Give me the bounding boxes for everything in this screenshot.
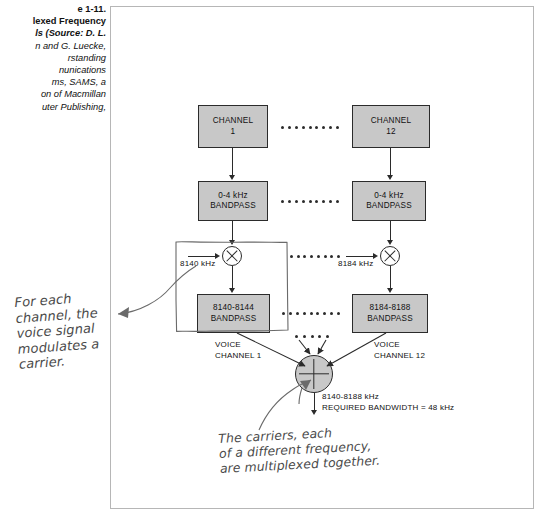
voice-channel-1-line1: VOICE xyxy=(215,340,261,351)
bandpass-12-label-line1: 0-4 kHz xyxy=(374,191,404,201)
arrowhead-mixer1-to-rfbp1 xyxy=(229,288,235,293)
channel-1-label-line1: CHANNEL xyxy=(213,116,254,126)
arrowhead-ch12-to-bp12 xyxy=(387,175,393,180)
rf-bandpass-1-box: 8140-8144 BANDPASS xyxy=(197,294,270,333)
channel-12-label-line1: CHANNEL xyxy=(371,116,412,126)
caption-line-1: e 1-11. xyxy=(0,3,106,15)
connector-bp1-to-mixer1 xyxy=(232,221,233,242)
caption-line-8: on of Macmillan xyxy=(0,88,106,100)
rf-bandpass-12-label-line2: BANDPASS xyxy=(367,314,413,324)
ellipsis-row-bandpass xyxy=(281,199,339,203)
mixer-12-symbol xyxy=(380,246,400,266)
caption-line-3: ls (Source: D. L. xyxy=(0,27,106,39)
bandpass-12-box: 0-4 kHz BANDPASS xyxy=(352,181,426,221)
voice-channel-12-line2: CHANNEL 12 xyxy=(374,351,425,362)
arrowhead-mixer12-to-rfbp12 xyxy=(387,288,393,293)
channel-1-box: CHANNEL 1 xyxy=(198,105,268,148)
connector-mixer12-to-rfbp12 xyxy=(390,266,391,290)
connector-carrier1-in xyxy=(188,256,216,257)
mixer-1-symbol xyxy=(222,246,242,266)
voice-channel-12-label: VOICE CHANNEL 12 xyxy=(374,340,425,361)
rf-bandpass-1-label-line1: 8140-8144 xyxy=(213,303,254,313)
ellipsis-row-channels xyxy=(281,125,339,129)
ellipsis-row-mixers xyxy=(290,254,340,258)
bandpass-1-box: 0-4 kHz BANDPASS xyxy=(198,181,268,221)
caption-line-9: uter Publishing, xyxy=(0,101,106,113)
arrowhead-carrier1-in xyxy=(215,253,220,259)
bandpass-12-label-line2: BANDPASS xyxy=(366,201,412,211)
bandpass-1-label-line2: BANDPASS xyxy=(210,201,256,211)
ellipsis-row-summer-inputs xyxy=(295,334,329,338)
connector-ch12-to-bp12 xyxy=(390,148,391,176)
arrowhead-summer-output xyxy=(311,410,317,415)
rf-bandpass-12-label-line1: 8184-8188 xyxy=(370,303,411,313)
connector-ch1-to-bp1 xyxy=(232,148,233,176)
output-label-line2: REQUIRED BANDWIDTH = 48 kHz xyxy=(322,403,454,414)
connector-bp12-to-mixer12 xyxy=(390,221,391,242)
handwritten-note-bottom: The carriers, each of a different freque… xyxy=(218,424,380,477)
arrowhead-ch1-to-bp1 xyxy=(229,175,235,180)
voice-channel-12-line1: VOICE xyxy=(374,340,425,351)
caption-line-5: rstanding xyxy=(0,52,106,64)
handwritten-note-left: For each channel, the voice signal modul… xyxy=(14,289,101,372)
rf-bandpass-12-box: 8184-8188 BANDPASS xyxy=(352,294,428,333)
connector-carrier12-in xyxy=(346,256,374,257)
rf-bandpass-1-label-line2: BANDPASS xyxy=(211,314,257,324)
arrowhead-bp1-to-mixer1 xyxy=(229,240,235,245)
bandpass-1-label-line1: 0-4 kHz xyxy=(218,191,248,201)
caption-line-4: n and G. Luecke, xyxy=(0,40,106,52)
voice-channel-1-line2: CHANNEL 1 xyxy=(215,351,261,362)
caption-line-7: ms, SAMS, a xyxy=(0,76,106,88)
channel-12-label-line2: 12 xyxy=(386,127,396,137)
voice-channel-1-label: VOICE CHANNEL 1 xyxy=(215,340,261,361)
connector-mixer1-to-rfbp1 xyxy=(232,266,233,290)
output-label-line1: 8140-8188 kHz xyxy=(322,392,454,403)
caption-line-6: nunications xyxy=(0,64,106,76)
output-bandwidth-label: 8140-8188 kHz REQUIRED BANDWIDTH = 48 kH… xyxy=(322,392,454,413)
channel-1-label-line2: 1 xyxy=(231,127,236,137)
carrier-12-frequency-label: 8184 kHz xyxy=(338,259,373,269)
figure-caption: e 1-11. lexed Frequency ls (Source: D. L… xyxy=(0,3,106,113)
ellipsis-row-rf-bandpass xyxy=(282,311,340,315)
carrier-1-frequency-label: 8140 kHz xyxy=(180,259,215,269)
arrowhead-carrier12-in xyxy=(373,253,378,259)
figure-page: e 1-11. lexed Frequency ls (Source: D. L… xyxy=(0,0,541,515)
summing-junction-symbol xyxy=(295,355,333,393)
caption-line-2: lexed Frequency xyxy=(0,15,106,27)
channel-12-box: CHANNEL 12 xyxy=(352,105,430,148)
arrowhead-bp12-to-mixer12 xyxy=(387,240,393,245)
